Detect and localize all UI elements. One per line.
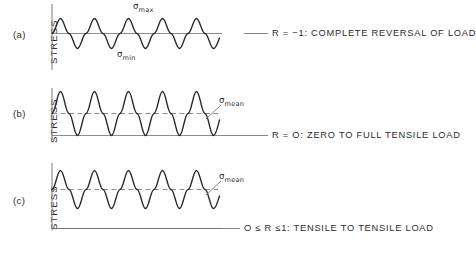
sigma-max-subscript: max <box>138 6 153 14</box>
sigma-max-label: σmax <box>133 1 154 14</box>
sigma-mean-label-c: σmean <box>219 171 244 184</box>
panel-a-plot <box>0 0 451 86</box>
panel-c: (c) STRESS σmean O ≤ R ≤1: TENSILE TO TE… <box>0 158 451 258</box>
sigma-mean-label-b: σmean <box>219 95 244 108</box>
panel-a-caption: R = −1: COMPLETE REVERSAL OF LOAD <box>272 28 476 38</box>
panel-a: (a) STRESS σmax σmin R = −1: COMPLETE RE… <box>0 0 451 86</box>
panel-c-waveform <box>52 171 220 209</box>
sigma-mean-subscript-c: mean <box>224 176 244 184</box>
sigma-min-label: σmin <box>117 49 136 62</box>
panel-b: (b) STRESS σmean R = O: ZERO TO FULL TEN… <box>0 86 451 158</box>
panel-c-caption: O ≤ R ≤1: TENSILE TO TENSILE LOAD <box>244 223 434 233</box>
panel-b-waveform <box>52 92 220 136</box>
sigma-min-subscript: min <box>122 54 135 62</box>
panel-b-caption: R = O: ZERO TO FULL TENSILE LOAD <box>272 130 461 140</box>
sigma-mean-subscript-b: mean <box>224 100 244 108</box>
